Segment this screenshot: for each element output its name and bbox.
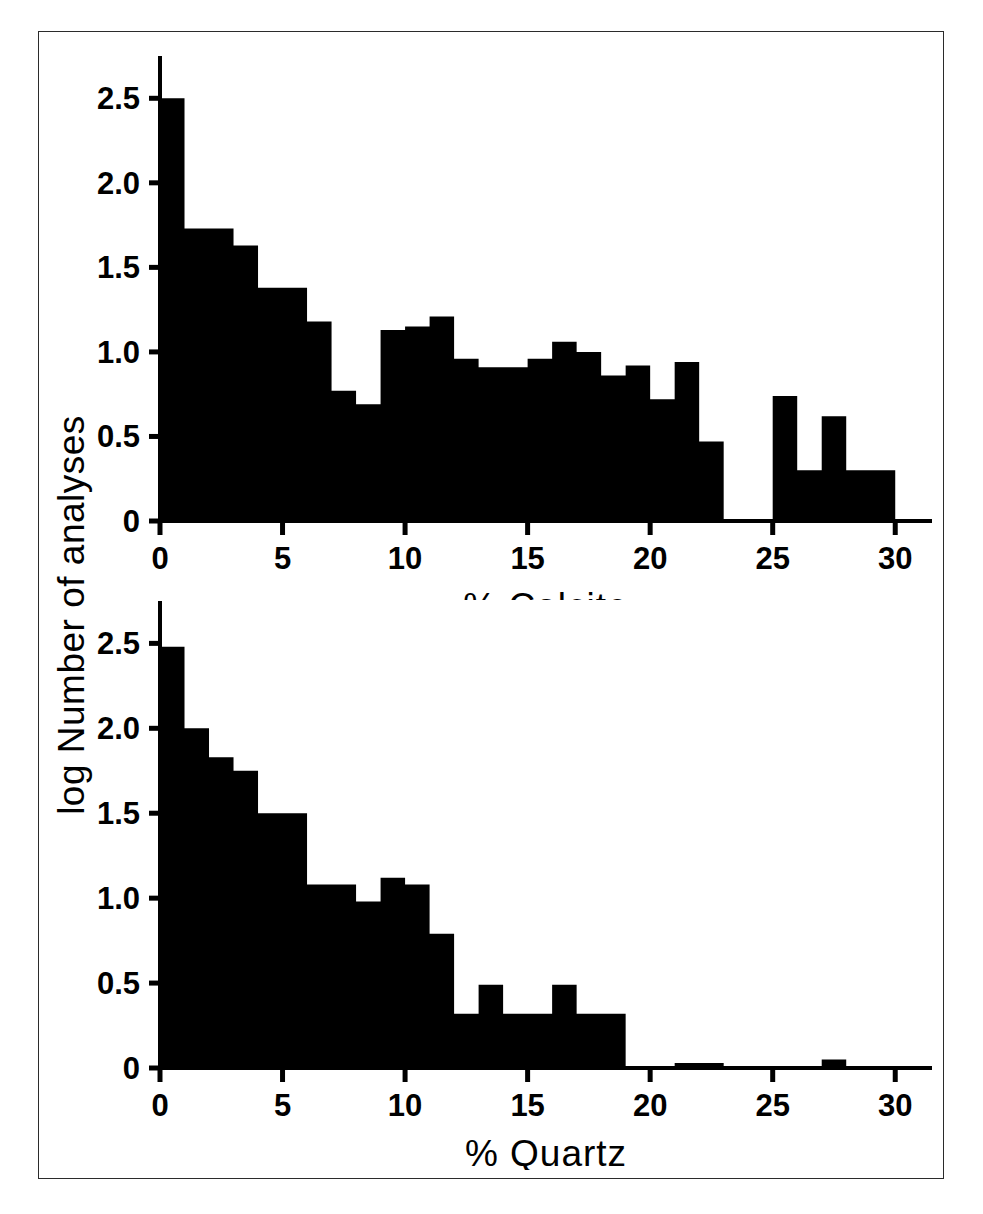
y-tick-label: 0.5 [97, 966, 140, 1001]
y-tick-label: 2.5 [97, 81, 140, 116]
y-tick-label: 0 [123, 504, 140, 539]
x-tick-label: 0 [151, 541, 168, 576]
x-tick-label: 25 [755, 1088, 789, 1123]
x-tick-label: 0 [151, 1088, 168, 1123]
x-tick-label: 10 [388, 1088, 422, 1123]
quartz-x-axis-title: % Quartz [465, 1133, 627, 1170]
calcite-y-tick-labels: 00.51.01.52.02.5 [97, 81, 140, 539]
calcite-histogram-svg: 00.51.01.52.02.5 051015202530 % Calcite [60, 40, 940, 600]
y-tick-label: 1.0 [97, 881, 140, 916]
quartz-x-tick-labels: 051015202530 [151, 1088, 912, 1123]
x-tick-label: 25 [755, 541, 789, 576]
figure-root: log Number of analyses 00.51.01.52.02.5 … [0, 0, 983, 1214]
y-tick-label: 2.5 [97, 626, 140, 661]
y-tick-label: 1.5 [97, 250, 140, 285]
x-tick-label: 10 [388, 541, 422, 576]
x-tick-label: 20 [633, 1088, 667, 1123]
x-tick-label: 30 [878, 1088, 912, 1123]
quartz-histogram-svg: 00.51.01.52.02.5 051015202530 % Quartz [60, 585, 940, 1170]
x-tick-label: 30 [878, 541, 912, 576]
quartz-y-tick-labels: 00.51.01.52.02.5 [97, 626, 140, 1086]
y-tick-label: 0.5 [97, 419, 140, 454]
chart-panel-quartz: 00.51.01.52.02.5 051015202530 % Quartz [60, 585, 940, 1170]
y-tick-label: 0 [123, 1051, 140, 1086]
x-tick-label: 20 [633, 541, 667, 576]
y-tick-label: 1.0 [97, 335, 140, 370]
calcite-bars [160, 98, 895, 521]
y-tick-label: 1.5 [97, 796, 140, 831]
x-tick-label: 15 [510, 541, 544, 576]
y-tick-label: 2.0 [97, 711, 140, 746]
calcite-x-tick-labels: 051015202530 [151, 541, 912, 576]
y-tick-label: 2.0 [97, 166, 140, 201]
quartz-bars [160, 647, 895, 1068]
x-tick-label: 5 [274, 1088, 291, 1123]
x-tick-label: 5 [274, 541, 291, 576]
x-tick-label: 15 [510, 1088, 544, 1123]
chart-panel-calcite: 00.51.01.52.02.5 051015202530 % Calcite [60, 40, 940, 600]
